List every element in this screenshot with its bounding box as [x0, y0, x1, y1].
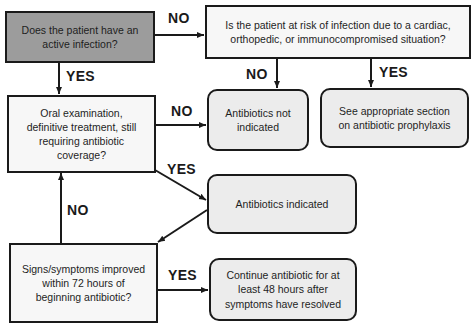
node-risk-question: Is the patient at risk of infection due … [205, 5, 471, 59]
node-indicated-text: Antibiotics indicated [236, 197, 329, 211]
node-risk-question-text: Is the patient at risk of infection due … [217, 18, 459, 46]
edge-label-improved-yes: YES [168, 267, 197, 283]
edge-label-oral-no: NO [171, 103, 193, 119]
node-improved-text: Signs/symptoms improved within 72 hours … [19, 262, 148, 305]
edge-label-improved-no: NO [67, 202, 89, 218]
edge-label-risk-yes: YES [379, 64, 408, 80]
node-oral-exam: Oral examination, definitive treatment, … [7, 95, 156, 173]
node-prophylaxis: See appropriate section on antibiotic pr… [320, 88, 469, 148]
node-not-indicated: Antibiotics not indicated [207, 89, 309, 151]
node-active-infection: Does the patient have an active infectio… [5, 11, 155, 63]
node-prophylaxis-text: See appropriate section on antibiotic pr… [334, 104, 455, 132]
node-not-indicated-text: Antibiotics not indicated [221, 106, 295, 134]
node-continue: Continue antibiotic for at least 48 hour… [209, 258, 357, 321]
node-improved: Signs/symptoms improved within 72 hours … [9, 243, 158, 323]
edge-label-active-yes: YES [66, 68, 95, 84]
edge-label-risk-no: NO [246, 66, 268, 82]
edge-label-oral-yes: YES [167, 161, 196, 177]
node-indicated: Antibiotics indicated [207, 174, 357, 234]
edge-label-active-no: NO [168, 10, 190, 26]
node-active-infection-text: Does the patient have an active infectio… [15, 23, 145, 51]
edge-indicated-to-improved [158, 210, 207, 242]
node-continue-text: Continue antibiotic for at least 48 hour… [221, 268, 345, 311]
node-oral-exam-text: Oral examination, definitive treatment, … [23, 106, 140, 163]
